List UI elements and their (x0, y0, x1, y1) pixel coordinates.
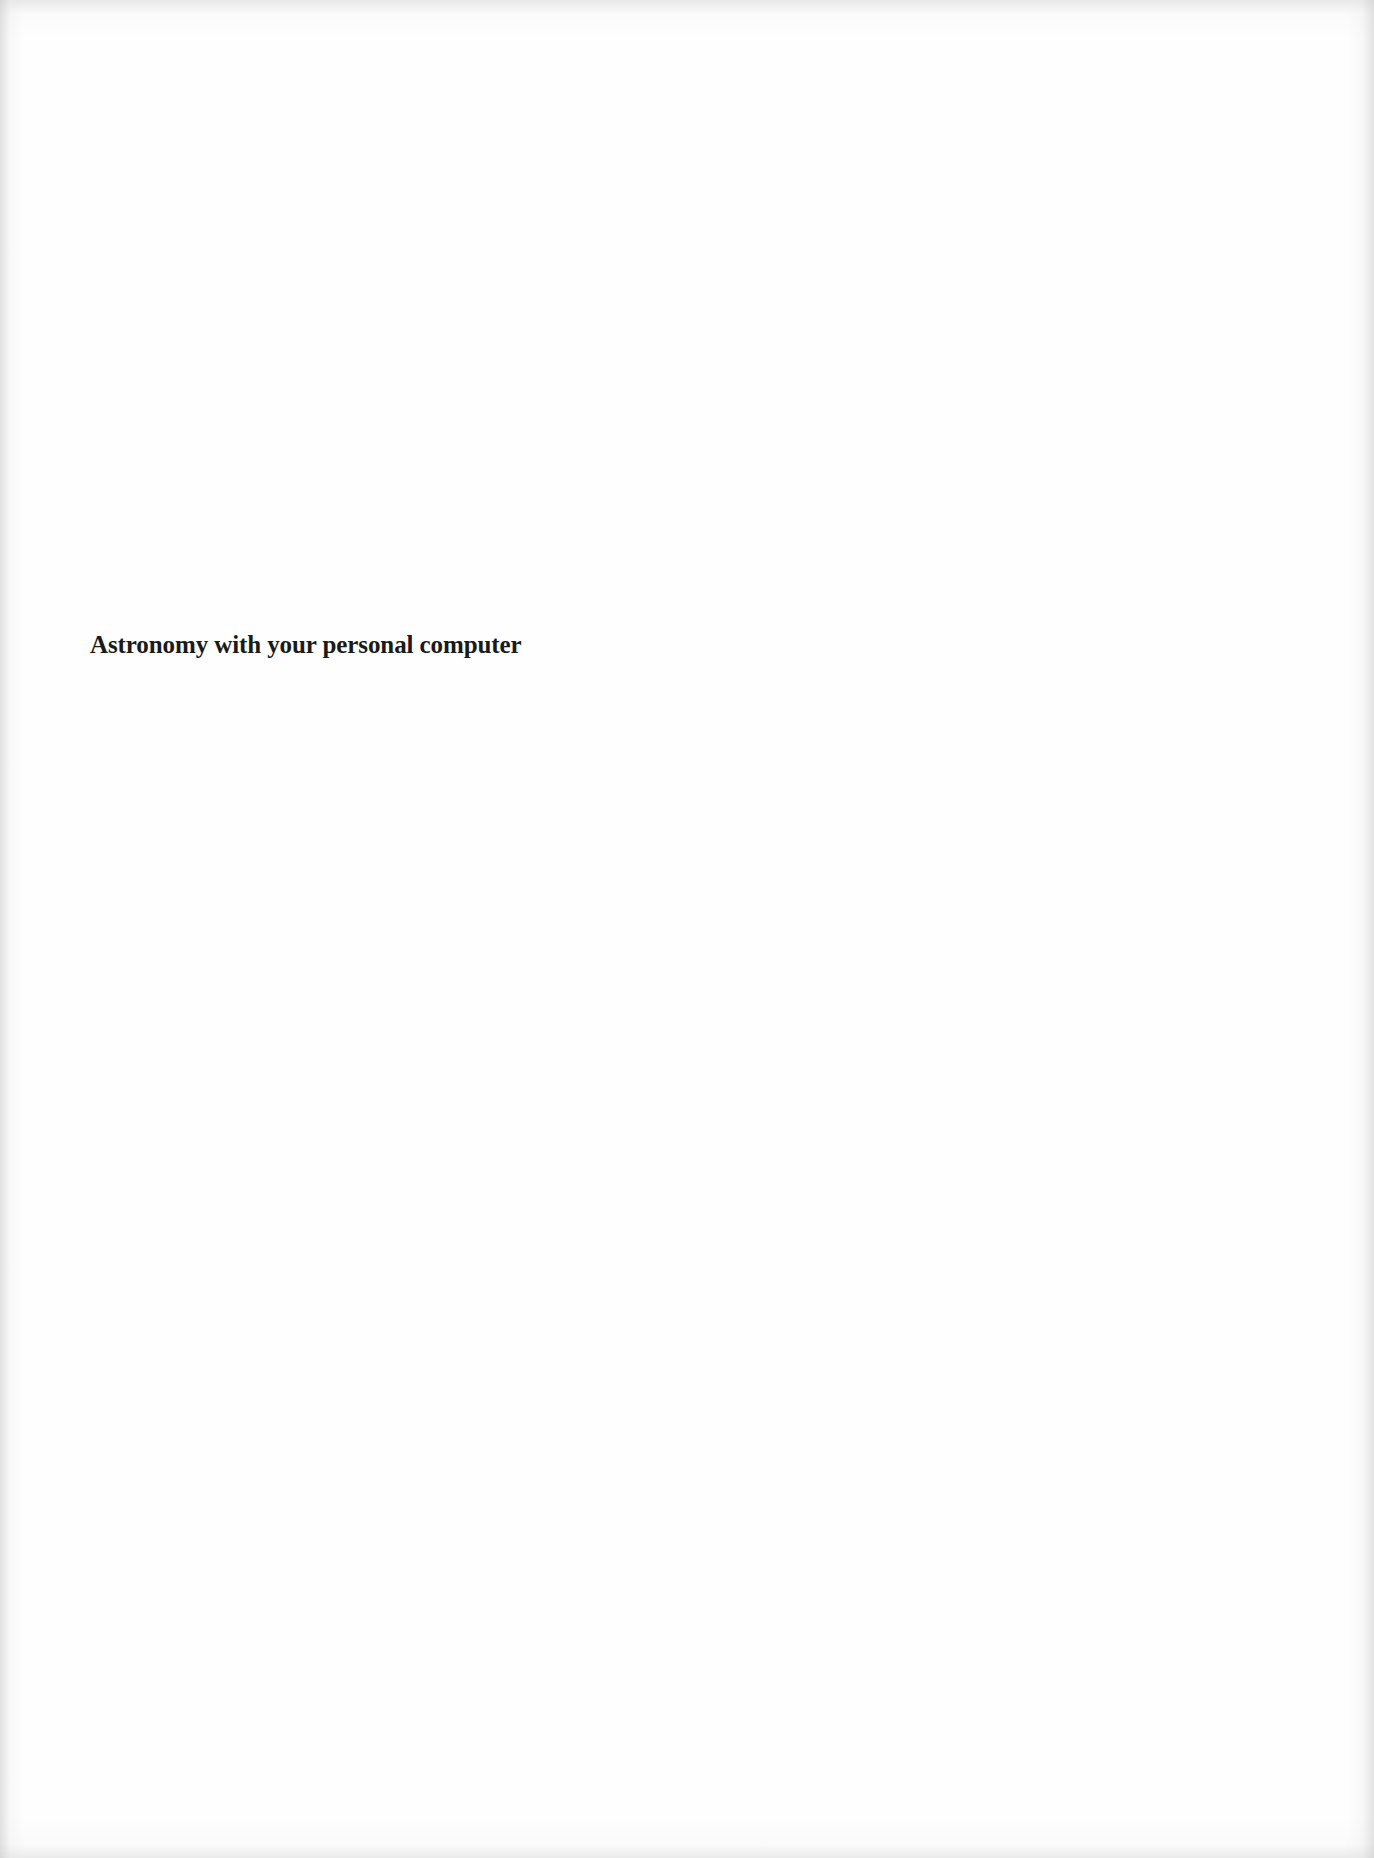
page-title: Astronomy with your personal computer (90, 630, 521, 660)
document-page: Astronomy with your personal computer (0, 0, 1374, 1858)
